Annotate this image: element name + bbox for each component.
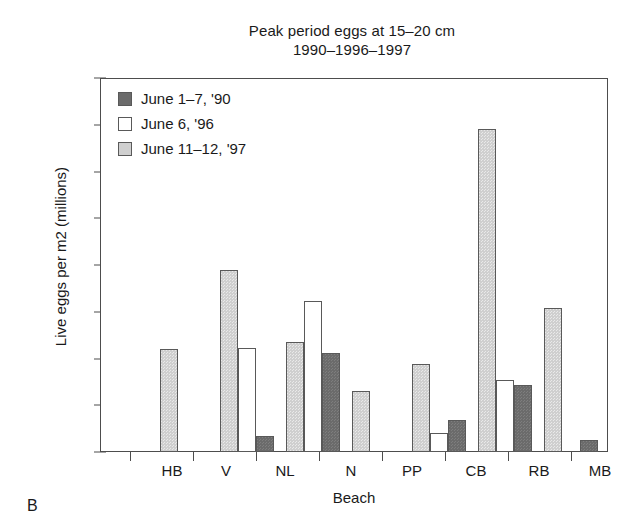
x-tick-label-cb: CB — [466, 462, 487, 479]
legend: June 1–7, '90 June 6, '96 June 11–12, '9… — [118, 86, 308, 161]
y-axis-title: Live eggs per m2 (millions) — [52, 102, 69, 412]
bar-CB-1990 — [448, 420, 466, 452]
chart-title: Peak period eggs at 15–20 cm 1990–1996–1… — [96, 22, 608, 60]
bar-NL-1990 — [256, 436, 274, 452]
x-tick-mark — [382, 452, 383, 461]
bar-RB-1996 — [496, 380, 514, 452]
x-tick-label-rb: RB — [529, 462, 550, 479]
x-tick-label-n: N — [346, 462, 357, 479]
x-tick-mark — [256, 452, 257, 461]
bar-RB-1990 — [514, 385, 532, 452]
bar-CB-1996 — [430, 433, 448, 452]
bar-N-1997 — [286, 342, 304, 452]
bar-PP-1997 — [352, 391, 370, 452]
legend-swatch-1996-icon — [118, 117, 132, 131]
bar-NL-1997 — [220, 270, 238, 452]
x-tick-mark — [130, 452, 131, 461]
x-tick-mark — [193, 452, 194, 461]
bar-MB-1990 — [580, 440, 598, 452]
chart-title-line-2: 1990–1996–1997 — [96, 41, 608, 60]
panel-letter: B — [27, 497, 38, 515]
x-tick-mark — [571, 452, 572, 461]
x-tick-label-mb: MB — [589, 462, 612, 479]
legend-label-1996: June 6, '96 — [141, 115, 214, 132]
x-axis-title: Beach — [100, 489, 608, 506]
bar-MB-1997 — [544, 308, 562, 452]
legend-item-1990: June 1–7, '90 — [118, 86, 308, 111]
x-tick-label-hb: HB — [162, 462, 183, 479]
bar-chart-figure: Peak period eggs at 15–20 cm 1990–1996–1… — [0, 0, 632, 531]
x-tick-mark — [319, 452, 320, 461]
bar-CB-1997 — [412, 364, 430, 452]
x-tick-label-nl: NL — [275, 462, 294, 479]
bar-NL-1996 — [238, 348, 256, 452]
x-tick-label-v: V — [221, 462, 231, 479]
legend-swatch-1997-icon — [118, 142, 132, 156]
x-tick-label-pp: PP — [402, 462, 422, 479]
bar-RB-1997 — [478, 129, 496, 452]
legend-label-1990: June 1–7, '90 — [141, 90, 231, 107]
legend-item-1997: June 11–12, '97 — [118, 136, 308, 161]
bar-N-1996 — [304, 301, 322, 452]
chart-title-line-1: Peak period eggs at 15–20 cm — [96, 22, 608, 41]
legend-item-1996: June 6, '96 — [118, 111, 308, 136]
x-tick-mark — [445, 452, 446, 461]
bar-N-1990 — [322, 353, 340, 452]
x-tick-mark — [508, 452, 509, 461]
bar-V-1997 — [160, 349, 178, 452]
legend-label-1997: June 11–12, '97 — [141, 140, 246, 157]
legend-swatch-1990-icon — [118, 92, 132, 106]
